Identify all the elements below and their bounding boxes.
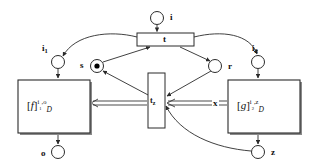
place-i xyxy=(151,12,164,25)
place-i1 xyxy=(52,56,65,69)
subnet-label-g: [g]i2,zD xyxy=(237,99,264,114)
place-r xyxy=(209,60,222,73)
place-label-s: s xyxy=(80,61,84,70)
arc-t-to-r xyxy=(180,47,210,61)
arc-tz-to-s xyxy=(103,71,150,96)
petri-net-canvas xyxy=(0,0,313,168)
arc-r-to-tz xyxy=(167,71,211,96)
arc-tz-to-f-double xyxy=(91,99,147,107)
place-z xyxy=(252,146,265,159)
place-label-o: o xyxy=(41,149,46,158)
place-label-i2: i2 xyxy=(252,44,258,54)
subnet-label-f: [f]i1,oD xyxy=(27,99,52,114)
place-i2 xyxy=(252,56,265,69)
place-o xyxy=(52,146,65,159)
place-s-token xyxy=(94,63,99,68)
place-label-z: z xyxy=(271,148,275,157)
arc-s-to-t xyxy=(103,47,150,62)
place-label-r: r xyxy=(228,62,232,71)
arc-t-to-i2 xyxy=(194,34,257,54)
place-label-i1: i1 xyxy=(42,44,48,54)
petri-net-diagram: i i1 i2 s r o z t tz [f]i1,oD [g]i2,zD x xyxy=(0,0,313,168)
arc-t-to-i1 xyxy=(63,34,137,56)
transition-label-tz: tz xyxy=(150,97,155,106)
arc-annotation-x: x xyxy=(212,99,219,108)
place-label-i: i xyxy=(170,13,173,22)
transition-label-t: t xyxy=(163,35,166,44)
